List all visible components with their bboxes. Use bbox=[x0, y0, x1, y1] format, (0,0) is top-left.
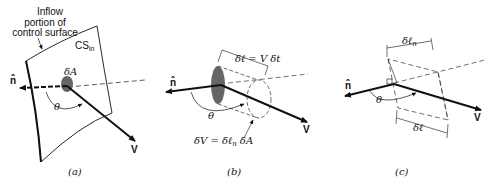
area-label: δA bbox=[64, 67, 77, 77]
surface-note-line1: Inflow bbox=[20, 7, 80, 17]
leader-line bbox=[38, 38, 42, 49]
length-label: δℓ bbox=[413, 123, 423, 133]
length-equation: δℓ = V δt bbox=[235, 54, 280, 64]
caption-c: (c) bbox=[395, 167, 408, 177]
volume-equation: δV = δℓn δA bbox=[194, 136, 253, 148]
surface-name-label: CSin bbox=[75, 41, 94, 52]
velocity-label: V bbox=[131, 145, 138, 155]
angle-label: θ bbox=[54, 102, 60, 112]
normal-label: n̂ bbox=[345, 81, 351, 91]
velocity-label: V bbox=[303, 125, 310, 135]
angle-label: θ bbox=[376, 95, 382, 105]
caption-a: (a) bbox=[68, 167, 82, 177]
velocity-label: V bbox=[474, 113, 481, 123]
caption-b: (b) bbox=[227, 167, 241, 177]
normal-vector bbox=[345, 84, 394, 96]
normal-label: n̂ bbox=[170, 78, 176, 88]
figure: Inflow portion of control surface CSin δ… bbox=[0, 0, 491, 184]
surface-note-line3: control surface bbox=[0, 28, 90, 38]
angle-label: θ bbox=[208, 111, 214, 121]
normal-label: n̂ bbox=[10, 76, 16, 86]
normal-vector bbox=[20, 86, 67, 88]
velocity-vector bbox=[67, 86, 135, 141]
normal-length-label: δℓn bbox=[402, 36, 417, 48]
velocity-vector bbox=[394, 84, 481, 110]
